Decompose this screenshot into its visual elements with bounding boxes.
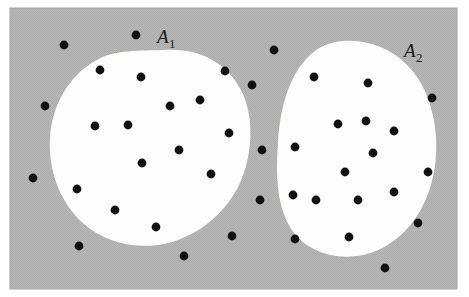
sample-point-in-a1 [225,129,234,138]
sample-point-in-a2 [289,191,298,200]
sample-point-in-a1 [137,73,146,82]
sample-point-outside [258,146,267,155]
sample-point-in-a2 [362,117,371,126]
sample-point-in-a1 [166,102,175,111]
sample-point-in-a1 [138,159,147,168]
sample-point-in-a1 [124,121,133,130]
set-label-subscript: 1 [169,36,176,51]
sample-point-in-a1 [221,67,230,76]
figure-canvas: A1A2 [0,0,469,297]
sample-point-in-a2 [334,120,343,129]
sample-point-in-a2 [310,73,319,82]
sample-point-outside [41,102,50,111]
sample-point-in-a1 [196,96,205,105]
sample-point-in-a1 [175,146,184,155]
sample-point-outside [96,66,105,75]
sample-point-in-a1 [91,122,100,131]
sample-point-in-a2 [390,127,399,136]
sample-point-outside [270,46,279,55]
sample-point-outside [414,219,423,228]
sample-point-in-a1 [207,170,216,179]
sample-point-outside [256,196,265,205]
sample-point-outside [180,252,189,261]
sample-point-in-a2 [291,235,300,244]
sample-point-in-a1 [152,223,161,232]
sample-point-in-a2 [345,233,354,242]
sample-point-in-a2 [312,196,321,205]
sample-point-outside [381,264,390,273]
set-diagram-svg: A1A2 [0,0,469,297]
sample-point-outside [228,232,237,241]
sample-point-in-a1 [111,206,120,215]
sample-point-outside [428,94,437,103]
set-label-subscript: 2 [416,50,423,65]
sample-point-outside [132,31,141,40]
sample-point-in-a1 [73,185,82,194]
sample-point-in-a2 [354,196,363,205]
sample-point-in-a2 [291,143,300,152]
sample-point-in-a2 [364,79,373,88]
sample-point-in-a2 [390,188,399,197]
sample-point-outside [424,168,433,177]
sample-point-in-a2 [369,149,378,158]
sample-point-outside [29,174,38,183]
sample-point-outside [60,41,69,50]
sample-point-in-a2 [341,168,350,177]
sample-point-outside [75,242,84,251]
sample-point-outside [248,81,257,90]
set-label-base: A [402,40,416,61]
set-label-base: A [155,26,169,47]
